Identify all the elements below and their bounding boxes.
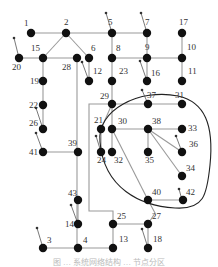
node-4 [74, 244, 82, 252]
edge-2-15 [43, 33, 66, 58]
figure-caption: 图 … 系统网络结构 … 节点分区 [0, 256, 218, 267]
node-label-40: 40 [152, 187, 162, 197]
node-label-36: 36 [189, 139, 199, 149]
node-label-19: 19 [30, 76, 40, 86]
arrowhead-icon [140, 12, 143, 15]
node-label-34: 34 [186, 163, 196, 173]
node-28 [73, 54, 81, 62]
node-18 [144, 244, 152, 252]
node-label-17: 17 [179, 17, 189, 27]
node-36 [178, 148, 186, 156]
node-5 [108, 29, 116, 37]
arrowhead-icon [70, 204, 73, 207]
node-2 [62, 29, 70, 37]
node-label-35: 35 [145, 155, 155, 165]
node-34 [178, 172, 186, 180]
node-label-9: 9 [145, 42, 150, 52]
node-label-22: 22 [29, 100, 38, 110]
node-9 [143, 54, 151, 62]
node-label-11: 11 [188, 66, 197, 76]
node-15 [39, 54, 47, 62]
arrowhead-icon [141, 89, 144, 92]
node-20 [15, 54, 23, 62]
node-label-30: 30 [118, 116, 128, 126]
node-41 [39, 148, 47, 156]
node-label-14: 14 [65, 219, 75, 229]
node-label-10: 10 [187, 42, 197, 52]
node-3 [39, 244, 47, 252]
node-label-5: 5 [108, 17, 113, 27]
node-13 [109, 244, 117, 252]
node-8 [108, 54, 116, 62]
node-1 [27, 29, 35, 37]
node-21 [97, 125, 105, 133]
arrowhead-icon [105, 12, 108, 15]
arrowhead-icon [95, 135, 98, 138]
node-label-43: 43 [68, 188, 78, 198]
node-12 [85, 77, 93, 85]
arrowhead-icon [81, 61, 84, 64]
arrowhead-icon [178, 188, 181, 191]
node-17 [178, 29, 186, 37]
node-10 [178, 54, 186, 62]
node-39 [74, 148, 82, 156]
node-42 [179, 196, 187, 204]
node-label-38: 38 [152, 116, 162, 126]
node-11 [178, 77, 186, 85]
node-label-33: 33 [188, 123, 198, 133]
node-label-3: 3 [47, 235, 52, 245]
node-label-24: 24 [97, 155, 107, 165]
node-38 [144, 125, 152, 133]
node-label-29: 29 [100, 91, 110, 101]
node-26 [39, 125, 47, 133]
node-label-41: 41 [29, 147, 38, 157]
arrowhead-icon [141, 228, 144, 231]
node-label-21: 21 [94, 115, 103, 125]
node-29 [108, 100, 116, 108]
node-label-32: 32 [114, 155, 123, 165]
node-label-26: 26 [29, 118, 39, 128]
node-23 [108, 77, 116, 85]
node-31 [178, 100, 186, 108]
node-label-7: 7 [145, 17, 150, 27]
arrowhead-icon [36, 227, 39, 230]
arrowhead-icon [13, 37, 16, 40]
node-label-16: 16 [151, 68, 161, 78]
node-label-12: 12 [93, 66, 102, 76]
node-label-39: 39 [68, 138, 78, 148]
node-label-2: 2 [64, 17, 69, 27]
node-6 [85, 54, 93, 62]
node-label-20: 20 [12, 62, 22, 72]
node-label-18: 18 [153, 234, 163, 244]
edge-38-36 [148, 129, 182, 152]
node-label-4: 4 [83, 235, 88, 245]
node-27 [144, 220, 152, 228]
node-label-1: 1 [24, 18, 29, 28]
node-label-28: 28 [62, 62, 72, 72]
node-label-31: 31 [175, 90, 184, 100]
node-40 [144, 196, 152, 204]
node-label-25: 25 [117, 211, 127, 221]
node-22 [39, 101, 47, 109]
node-label-13: 13 [119, 234, 129, 244]
node-30 [108, 125, 116, 133]
arrowhead-icon [35, 132, 38, 135]
node-7 [143, 29, 151, 37]
node-25 [109, 220, 117, 228]
node-label-42: 42 [186, 187, 195, 197]
node-label-27: 27 [152, 211, 162, 221]
node-label-6: 6 [91, 43, 96, 53]
node-16 [143, 77, 151, 85]
node-37 [144, 100, 152, 108]
node-33 [178, 125, 186, 133]
node-label-15: 15 [31, 43, 41, 53]
node-19 [39, 77, 47, 85]
arrowhead-icon [139, 60, 142, 63]
node-14 [74, 220, 82, 228]
node-label-23: 23 [119, 66, 129, 76]
arrowhead-icon [175, 135, 178, 138]
node-label-37: 37 [147, 90, 157, 100]
node-label-8: 8 [116, 43, 121, 53]
